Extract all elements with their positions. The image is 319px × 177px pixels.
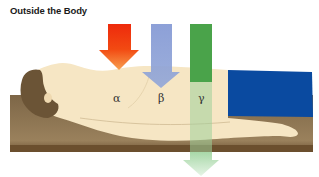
gamma-label: γ bbox=[198, 92, 205, 105]
alpha-label: α bbox=[113, 92, 120, 105]
radiation-penetration-diagram bbox=[0, 0, 319, 177]
alpha-arrow bbox=[99, 24, 139, 70]
pants bbox=[228, 70, 313, 117]
beta-label: β bbox=[158, 92, 164, 105]
